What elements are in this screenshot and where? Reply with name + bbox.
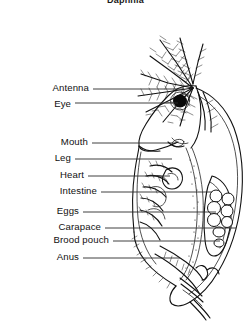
eggs [208, 190, 235, 247]
label-intestine: Intestine [60, 186, 97, 196]
antenna-group [138, 36, 206, 126]
head-outline [139, 85, 201, 151]
label-heart: Heart [60, 170, 84, 180]
post-abdomen [155, 246, 219, 306]
label-anus: Anus [57, 252, 79, 262]
label-leg: Leg [55, 153, 71, 163]
label-antenna: Antenna [53, 83, 89, 93]
ventral-setae [132, 236, 170, 288]
daphnia-diagram: Daphnia [0, 0, 251, 322]
daphnia-illustration [0, 0, 251, 322]
label-eye: Eye [54, 99, 71, 109]
eye [171, 92, 190, 110]
label-mouth: Mouth [61, 137, 88, 147]
label-brood-pouch: Brood pouch [53, 235, 109, 245]
label-eggs: Eggs [57, 206, 79, 216]
label-carapace: Carapace [59, 222, 101, 232]
